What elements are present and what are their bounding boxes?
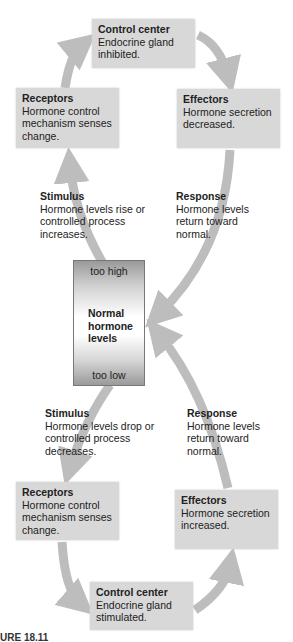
too-high-label: too high (74, 265, 144, 278)
box-title: Receptors (22, 486, 113, 499)
label-text: normal. (176, 228, 249, 241)
bottom-response-label: Response Hormone levels return toward no… (187, 407, 260, 457)
too-low-label: too low (74, 369, 144, 382)
box-text: decreased. (183, 118, 274, 131)
box-title: Effectors (181, 494, 272, 507)
label-text: controlled process (40, 215, 145, 228)
label-title: Stimulus (45, 407, 154, 420)
normal-text: levels (88, 332, 133, 345)
label-text: Hormone levels (176, 203, 249, 216)
box-text: Hormone secretion (183, 106, 274, 119)
label-text: Hormone levels rise or (40, 203, 145, 216)
box-text: inhibited. (98, 48, 189, 61)
box-text: change. (22, 130, 113, 143)
label-text: Hormone levels drop or (45, 420, 154, 433)
top-stimulus-label: Stimulus Hormone levels rise or controll… (40, 190, 145, 240)
label-title: Response (176, 190, 249, 203)
bottom-effectors-box: Effectors Hormone secretion increased. (175, 490, 278, 549)
top-response-label: Response Hormone levels return toward no… (176, 190, 249, 240)
label-text: return toward (187, 432, 260, 445)
normal-levels-label: Normal hormone levels (88, 307, 133, 345)
box-text: increased. (181, 519, 272, 532)
label-text: return toward (176, 215, 249, 228)
figure-label: URE 18.11 (0, 632, 48, 642)
box-text: change. (22, 524, 113, 537)
label-text: normal. (187, 445, 260, 458)
normal-text: hormone (88, 320, 133, 333)
label-text: increases. (40, 228, 145, 241)
box-text: stimulated. (96, 611, 187, 624)
top-receptors-box: Receptors Hormone control mechanism sens… (16, 88, 119, 148)
normal-text: Normal (88, 307, 133, 320)
box-text: Endocrine gland (96, 599, 187, 612)
label-title: Stimulus (40, 190, 145, 203)
box-text: Hormone secretion (181, 507, 272, 520)
box-text: Hormone control (22, 105, 113, 118)
normal-hormone-levels-box: too high Normal hormone levels too low (73, 260, 145, 386)
box-text: mechanism senses (22, 511, 113, 524)
box-title: Control center (98, 23, 189, 36)
label-text: decreases. (45, 445, 154, 458)
top-effectors-box: Effectors Hormone secretion decreased. (177, 89, 280, 148)
label-text: controlled process (45, 432, 154, 445)
box-title: Effectors (183, 93, 274, 106)
label-text: Hormone levels (187, 420, 260, 433)
box-text: Hormone control (22, 499, 113, 512)
box-text: mechanism senses (22, 117, 113, 130)
box-text: Endocrine gland (98, 36, 189, 49)
box-title: Control center (96, 586, 187, 599)
top-control-center-box: Control center Endocrine gland inhibited… (92, 19, 195, 68)
box-title: Receptors (22, 92, 113, 105)
label-title: Response (187, 407, 260, 420)
bottom-control-center-box: Control center Endocrine gland stimulate… (90, 582, 193, 630)
bottom-stimulus-label: Stimulus Hormone levels drop or controll… (45, 407, 154, 457)
bottom-receptors-box: Receptors Hormone control mechanism sens… (16, 482, 119, 540)
